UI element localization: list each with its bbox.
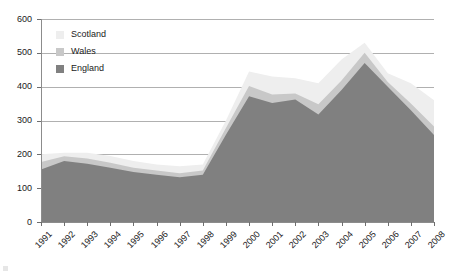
x-axis-tick — [295, 222, 296, 226]
legend-label-wales: Wales — [71, 47, 96, 56]
x-axis-tick — [434, 222, 435, 226]
x-axis-tick — [365, 222, 366, 226]
legend-item-scotland: Scotland — [56, 26, 106, 43]
legend: Scotland Wales England — [56, 26, 106, 77]
legend-swatch-england — [56, 65, 64, 73]
legend-label-scotland: Scotland — [71, 30, 106, 39]
legend-item-england: England — [56, 60, 106, 77]
x-axis-tick — [157, 222, 158, 226]
x-axis-tick — [388, 222, 389, 226]
x-axis-tick — [203, 222, 204, 226]
x-axis-tick — [110, 222, 111, 226]
legend-item-wales: Wales — [56, 43, 106, 60]
legend-swatch-scotland — [56, 31, 64, 39]
stacked-area-chart: 0100200300400500600 19911992199319941995… — [0, 0, 451, 276]
x-axis-tick — [226, 222, 227, 226]
x-axis-tick — [411, 222, 412, 226]
x-axis-tick — [249, 222, 250, 226]
x-axis-tick — [41, 222, 42, 226]
x-axis-tick — [342, 222, 343, 226]
scan-artifact — [3, 266, 8, 271]
x-axis-tick — [318, 222, 319, 226]
legend-swatch-wales — [56, 48, 64, 56]
y-axis-line — [41, 19, 42, 223]
x-axis-tick — [64, 222, 65, 226]
legend-label-england: England — [71, 64, 104, 73]
area-england — [41, 63, 434, 222]
x-axis-line — [41, 222, 435, 223]
x-axis-tick — [133, 222, 134, 226]
x-axis-tick — [180, 222, 181, 226]
x-axis-tick — [87, 222, 88, 226]
x-axis-tick — [272, 222, 273, 226]
